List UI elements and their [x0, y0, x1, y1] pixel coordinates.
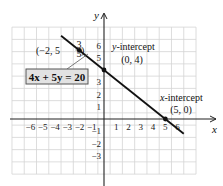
- y-tick-label: −1: [91, 126, 101, 136]
- x-intercept-coords: (5, 0): [170, 104, 192, 116]
- linear-equation-graph: xy −6−5−4−3−2−1123456−3−2−112356 (−2, 53…: [0, 0, 223, 186]
- y-tick-label: 1: [97, 102, 102, 112]
- y-tick-label: −2: [91, 139, 101, 149]
- y-intercept-title: y-intercept: [111, 41, 155, 52]
- y-tick-label: −3: [91, 151, 101, 161]
- y-tick-label: 6: [97, 41, 102, 51]
- x-intercept-title: x-intercept: [159, 92, 203, 103]
- x-tick-label: 3: [139, 122, 144, 132]
- point-marker: [163, 117, 168, 122]
- x-axis-label: x: [211, 123, 217, 135]
- x-tick-label: −2: [75, 122, 85, 132]
- x-tick-label: −4: [50, 122, 60, 132]
- x-tick-label: −5: [38, 122, 48, 132]
- x-tick-label: 5: [163, 122, 168, 132]
- point-label: (−2, 5: [36, 45, 60, 57]
- x-tick-label: 4: [151, 122, 156, 132]
- y-intercept-coords: (0, 4): [121, 54, 143, 66]
- x-tick-label: 2: [126, 122, 131, 132]
- point-marker: [102, 68, 107, 73]
- x-tick-label: 1: [114, 122, 119, 132]
- y-tick-label: 3: [97, 77, 102, 87]
- x-tick-label: −3: [62, 122, 72, 132]
- x-tick-label: −6: [26, 122, 36, 132]
- y-tick-label: 5: [97, 53, 102, 63]
- y-tick-label: 2: [97, 90, 102, 100]
- point-label-close: ): [81, 45, 84, 57]
- y-axis-label: y: [93, 9, 99, 21]
- equation-label: 4x + 5y = 20: [29, 71, 86, 83]
